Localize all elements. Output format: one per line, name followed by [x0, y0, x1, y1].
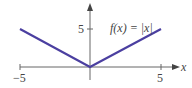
function-label: f(x) = |x| [110, 21, 153, 35]
x-tick-label-neg5: −5 [13, 71, 26, 85]
abs-value-chart: −5 5 5 x f(x) = |x| [0, 0, 192, 88]
y-tick-label-5: 5 [78, 22, 84, 36]
x-axis-arrow-icon [172, 64, 180, 70]
x-tick-label-pos5: 5 [157, 71, 163, 85]
y-axis-arrow-icon [87, 3, 93, 11]
x-axis-label: x [180, 60, 187, 74]
